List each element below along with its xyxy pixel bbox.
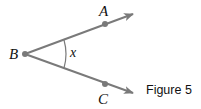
point-c-label: C xyxy=(98,91,109,107)
figure-caption: Figure 5 xyxy=(146,83,192,97)
point-b-dot xyxy=(22,51,28,57)
point-a-label: A xyxy=(98,3,109,19)
ray-bc xyxy=(25,54,133,93)
point-a-dot xyxy=(102,21,108,27)
point-b-label: B xyxy=(9,46,18,62)
point-c-dot xyxy=(102,81,108,87)
ray-ba xyxy=(25,14,133,54)
angle-x-label: x xyxy=(69,45,77,60)
angle-arc xyxy=(64,40,66,68)
